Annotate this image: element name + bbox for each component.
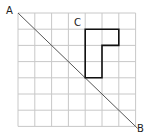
line-ab <box>18 13 138 128</box>
label-a: A <box>6 5 13 16</box>
grid-diagram: A B C <box>0 0 148 136</box>
label-b: B <box>137 123 144 134</box>
label-c: C <box>74 17 81 28</box>
